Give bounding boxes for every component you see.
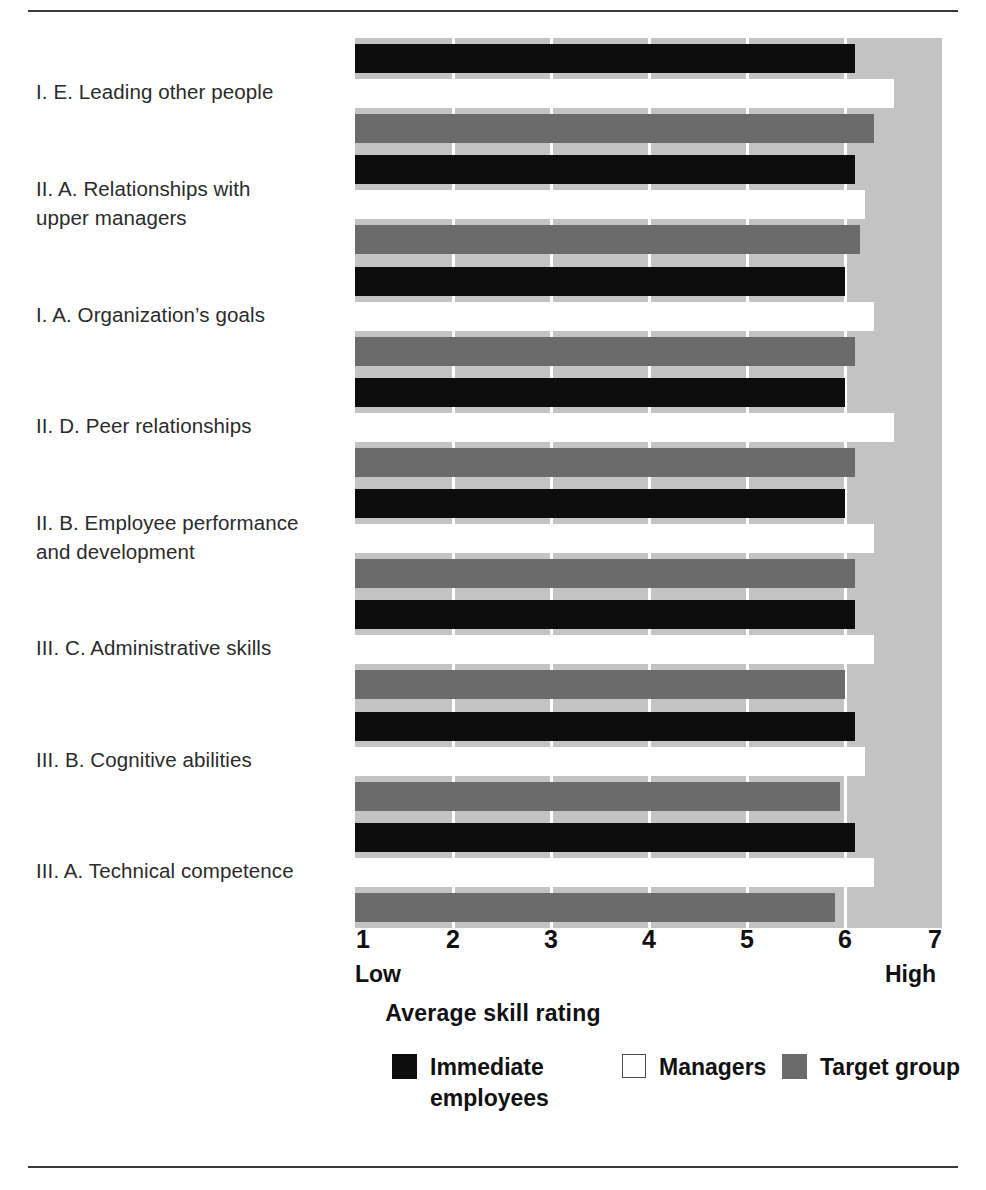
x-tick-label-1: 1 (343, 925, 383, 954)
bar-managers-group-7 (355, 858, 874, 887)
bar-immediate-group-0 (355, 44, 855, 73)
chart-page: I. E. Leading other peopleII. A. Relatio… (0, 0, 986, 1190)
bar-target-group-6 (355, 782, 840, 811)
x-tick-label-6: 6 (825, 925, 865, 954)
bar-immediate-group-1 (355, 155, 855, 184)
bar-target-group-7 (355, 893, 835, 922)
x-axis: Low High 1234567 (0, 925, 986, 1045)
category-label-5: III. C. Administrative skills (36, 633, 336, 662)
bar-managers-group-3 (355, 413, 894, 442)
bar-immediate-group-7 (355, 823, 855, 852)
bar-target-group-4 (355, 559, 855, 588)
bar-immediate-group-6 (355, 712, 855, 741)
category-label-0: I. E. Leading other people (36, 77, 336, 106)
bar-target-group-5 (355, 670, 845, 699)
bar-managers-group-6 (355, 747, 865, 776)
bar-managers-group-1 (355, 190, 865, 219)
legend-swatch-managers-icon (622, 1054, 646, 1078)
x-tick-label-3: 3 (531, 925, 571, 954)
bottom-rule (28, 1166, 958, 1168)
bar-target-group-2 (355, 337, 855, 366)
category-label-7: III. A. Technical competence (36, 856, 336, 885)
category-label-6: III. B. Cognitive abilities (36, 745, 336, 774)
x-axis-title: Average skill rating (0, 1000, 986, 1027)
category-label-3: II. D. Peer relationships (36, 411, 336, 440)
x-tick-label-4: 4 (629, 925, 669, 954)
bar-immediate-group-2 (355, 267, 845, 296)
legend-item-managers[interactable]: Managers (622, 1052, 766, 1083)
legend-label-target: Target group (820, 1052, 960, 1083)
bar-managers-group-5 (355, 635, 874, 664)
x-tick-label-2: 2 (433, 925, 473, 954)
legend-swatch-target-icon (782, 1054, 807, 1079)
bar-managers-group-2 (355, 302, 874, 331)
chart-area: I. E. Leading other peopleII. A. Relatio… (0, 30, 986, 930)
bar-immediate-group-3 (355, 378, 845, 407)
legend-label-immediate: Immediate employees (430, 1052, 549, 1114)
bar-managers-group-0 (355, 79, 894, 108)
bar-immediate-group-5 (355, 600, 855, 629)
legend-swatch-immediate-icon (392, 1054, 417, 1079)
axis-endcap-low: Low (355, 961, 401, 988)
legend-item-immediate[interactable]: Immediate employees (392, 1052, 549, 1114)
bar-managers-group-4 (355, 524, 874, 553)
legend-label-managers: Managers (659, 1052, 766, 1083)
category-label-1: II. A. Relationships with upper managers (36, 174, 336, 232)
chart-legend: Immediate employeesManagersTarget group (0, 1052, 986, 1142)
bar-target-group-3 (355, 448, 855, 477)
bar-target-group-0 (355, 114, 874, 143)
category-label-4: II. B. Employee performance and developm… (36, 508, 336, 566)
category-axis-labels: I. E. Leading other peopleII. A. Relatio… (0, 30, 340, 930)
gridline-7 (942, 38, 945, 928)
x-tick-label-7: 7 (915, 925, 955, 954)
axis-endcap-high: High (885, 961, 936, 988)
top-rule (28, 10, 958, 12)
plot-region (355, 38, 943, 928)
bar-immediate-group-4 (355, 489, 845, 518)
legend-item-target[interactable]: Target group (782, 1052, 960, 1083)
bar-target-group-1 (355, 225, 860, 254)
category-label-2: I. A. Organization’s goals (36, 300, 336, 329)
x-tick-label-5: 5 (727, 925, 767, 954)
